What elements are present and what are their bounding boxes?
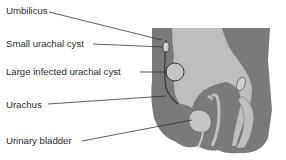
label-small-urachal-cyst: Small urachal cyst	[6, 38, 84, 49]
label-urinary-bladder: Urinary bladder	[6, 135, 72, 146]
urinary-bladder-shape	[189, 110, 212, 133]
label-umbilicus: Umbilicus	[6, 5, 48, 16]
small-urachal-cyst-shape	[163, 42, 169, 52]
large-infected-cyst-shape	[166, 63, 184, 81]
label-large-infected-urachal-cyst: Large infected urachal cyst	[6, 66, 121, 77]
label-urachus: Urachus	[6, 99, 42, 110]
